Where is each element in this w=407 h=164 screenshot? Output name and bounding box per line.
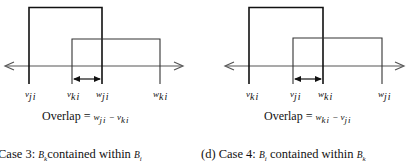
case4-diagram	[225, 8, 404, 85]
label-v-ki: vki	[246, 88, 259, 99]
label-w-ji: wji	[96, 88, 110, 99]
overlap-left-arrowhead-icon	[294, 76, 301, 82]
overlap-right-arrowhead-icon	[94, 76, 101, 82]
tall-interval-box	[249, 8, 323, 85]
overlap-formula: Overlap = wji − vki	[42, 110, 130, 122]
case4-caption: (d) Case 4: Bi contained within Bk	[201, 148, 366, 161]
case3-caption: Case 3: Bkcontained within Bi	[0, 148, 142, 161]
short-interval-box	[293, 38, 382, 84]
overlap-left-arrowhead-icon	[73, 76, 80, 82]
tall-interval-box	[29, 8, 102, 85]
label-w-ki: wki	[153, 88, 168, 99]
label-w-ki: wki	[318, 88, 333, 99]
label-v-ji: vji	[25, 88, 37, 99]
overlap-formula: Overlap = wki − vji	[264, 110, 352, 122]
label-v-ji: vji	[290, 88, 302, 99]
interval-overlap-diagram	[0, 0, 407, 164]
short-interval-box	[72, 39, 160, 84]
overlap-right-arrowhead-icon	[315, 76, 322, 82]
case3-diagram	[5, 8, 183, 85]
label-v-ki: vki	[67, 88, 80, 99]
label-w-ji: wji	[378, 88, 392, 99]
